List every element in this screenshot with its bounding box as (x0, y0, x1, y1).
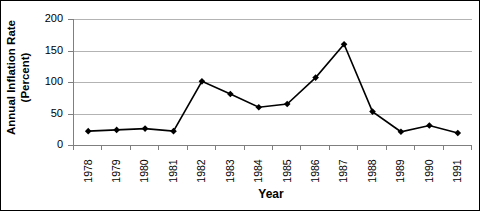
chart-figure: Annual Inflation Rate (Percent) 05010015… (0, 0, 480, 211)
x-tick-label-1990: 1990 (421, 151, 435, 189)
x-tick-label-text: 1981 (167, 159, 179, 182)
y-axis-title-line1: Annual Inflation Rate (5, 20, 19, 135)
x-tick-label-text: 1989 (394, 159, 406, 182)
x-tick-label-text: 1985 (280, 159, 292, 182)
x-tick-label-text: 1987 (337, 159, 349, 182)
x-tick-mark-7 (272, 146, 273, 150)
x-tick-label-1986: 1986 (308, 151, 322, 189)
x-tick-mark-6 (244, 146, 245, 150)
y-tick-label-0: 0 (29, 139, 63, 150)
y-tick-mark-200 (68, 19, 73, 20)
x-tick-mark-9 (329, 146, 330, 150)
x-tick-mark-10 (357, 146, 358, 150)
x-tick-label-text: 1980 (138, 159, 150, 182)
plot-area (73, 19, 472, 146)
x-tick-label-text: 1986 (309, 159, 321, 182)
x-tick-label-1988: 1988 (365, 151, 379, 189)
x-axis-title: Year (1, 187, 480, 201)
x-tick-label-1985: 1985 (279, 151, 293, 189)
x-tick-label-1982: 1982 (194, 151, 208, 189)
x-tick-label-text: 1990 (422, 159, 434, 182)
data-point-1991 (454, 130, 461, 137)
x-tick-label-1983: 1983 (222, 151, 236, 189)
data-point-1983 (227, 91, 234, 98)
x-tick-mark-1 (101, 146, 102, 150)
data-point-1979 (113, 127, 120, 134)
y-tick-mark-150 (68, 51, 73, 52)
x-tick-mark-3 (158, 146, 159, 150)
x-tick-label-text: 1982 (195, 159, 207, 182)
x-tick-label-text: 1984 (252, 159, 264, 182)
x-tick-mark-4 (187, 146, 188, 150)
x-tick-mark-12 (414, 146, 415, 150)
x-axis-title-text: Year (258, 187, 283, 201)
x-tick-mark-11 (386, 146, 387, 150)
data-point-1980 (142, 125, 149, 132)
x-tick-mark-13 (443, 146, 444, 150)
x-tick-label-1984: 1984 (251, 151, 265, 189)
y-tick-label-150: 150 (29, 45, 63, 56)
x-tick-mark-8 (300, 146, 301, 150)
x-tick-label-1991: 1991 (450, 151, 464, 189)
x-tick-mark-2 (130, 146, 131, 150)
x-tick-label-1987: 1987 (336, 151, 350, 189)
x-axis-tick-labels: 1978197919801981198219831984198519861987… (1, 151, 480, 191)
y-tick-mark-100 (68, 82, 73, 83)
x-tick-mark-0 (73, 146, 74, 150)
x-tick-mark-14 (471, 146, 472, 150)
x-tick-label-1980: 1980 (137, 151, 151, 189)
series-line (88, 44, 458, 133)
x-tick-label-text: 1978 (81, 159, 93, 182)
y-tick-label-200: 200 (29, 13, 63, 24)
x-tick-label-text: 1988 (366, 159, 378, 182)
x-tick-label-1989: 1989 (393, 151, 407, 189)
data-point-1982 (199, 78, 206, 85)
data-point-1978 (85, 128, 92, 135)
x-tick-label-1981: 1981 (166, 151, 180, 189)
x-tick-label-text: 1991 (451, 159, 463, 182)
y-tick-label-50: 50 (29, 108, 63, 119)
data-point-1981 (170, 128, 177, 135)
y-tick-label-100: 100 (29, 76, 63, 87)
data-point-1990 (426, 122, 433, 129)
x-tick-label-text: 1979 (110, 159, 122, 182)
data-point-1984 (255, 104, 262, 111)
x-tick-label-1978: 1978 (80, 151, 94, 189)
y-axis-tick-labels: 050100150200 (33, 1, 69, 161)
x-tick-label-text: 1983 (223, 159, 235, 182)
x-tick-label-1979: 1979 (109, 151, 123, 189)
y-tick-mark-50 (68, 114, 73, 115)
data-series (74, 19, 472, 145)
x-tick-mark-5 (215, 146, 216, 150)
